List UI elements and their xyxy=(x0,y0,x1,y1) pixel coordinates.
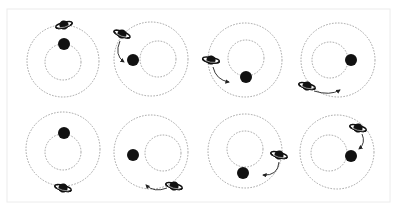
orbit-panel-bottom-3 xyxy=(208,114,288,188)
orbit-panel-top-3 xyxy=(202,23,282,97)
orbit-panel-top-4 xyxy=(298,23,375,97)
star-icon xyxy=(58,38,70,50)
inner-orbit xyxy=(45,134,81,170)
motion-arrow-icon xyxy=(314,90,340,93)
ringed-planet-icon xyxy=(298,79,317,92)
outer-orbit xyxy=(26,112,100,186)
inner-orbit xyxy=(312,42,348,78)
panels-group xyxy=(26,18,375,194)
outer-orbit xyxy=(27,25,99,97)
orbit-panel-top-2 xyxy=(112,22,188,96)
ringed-planet-icon xyxy=(349,121,368,134)
diagram-frame xyxy=(7,9,390,202)
inner-orbit xyxy=(311,135,347,171)
ringed-planet-icon xyxy=(270,148,289,161)
inner-orbit xyxy=(140,41,176,77)
orbit-panel-bottom-1 xyxy=(26,112,100,195)
orbit-panel-bottom-2 xyxy=(114,115,188,193)
diagram-canvas xyxy=(0,0,399,212)
inner-orbit xyxy=(228,40,264,76)
ringed-planet-icon xyxy=(55,18,74,31)
star-icon xyxy=(345,150,357,162)
star-icon xyxy=(58,127,70,139)
inner-orbit xyxy=(227,131,263,167)
orbit-panel-bottom-4 xyxy=(300,115,374,189)
star-icon xyxy=(127,149,139,161)
star-icon xyxy=(237,167,249,179)
orbit-panel-top-1 xyxy=(27,18,99,97)
star-icon xyxy=(345,54,357,66)
outer-orbit xyxy=(114,115,188,189)
inner-orbit xyxy=(145,135,181,171)
motion-arrow-icon xyxy=(359,134,363,149)
orbit-diagram-grid xyxy=(0,0,399,212)
star-icon xyxy=(240,71,252,83)
motion-arrow-icon xyxy=(213,67,229,82)
star-icon xyxy=(127,54,139,66)
ringed-planet-icon xyxy=(54,181,73,194)
motion-arrow-icon xyxy=(146,185,167,190)
motion-arrow-icon xyxy=(118,41,124,62)
motion-arrow-icon xyxy=(263,162,279,175)
ringed-planet-icon xyxy=(202,54,220,66)
